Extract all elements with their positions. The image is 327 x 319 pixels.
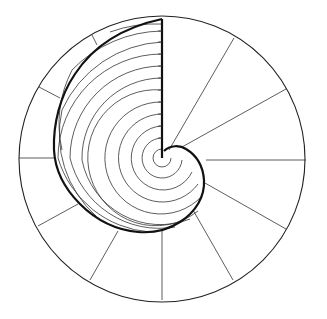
radial-line [39, 87, 60, 98]
radial-line [90, 231, 118, 280]
radial-line [92, 35, 97, 45]
spiral-curve [54, 19, 204, 232]
radial-line [38, 204, 78, 226]
spiral-diagram [0, 0, 327, 319]
radial-line [182, 89, 286, 147]
radial-line [193, 210, 233, 280]
concentric-arcs [58, 24, 202, 232]
radial-line [169, 38, 234, 150]
radial-line [205, 183, 286, 229]
